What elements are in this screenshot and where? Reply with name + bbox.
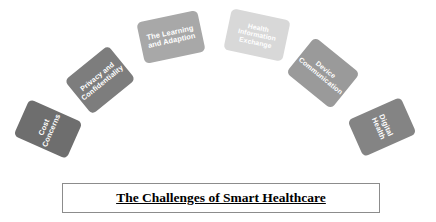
diagram-node-cost-concerns[interactable]: Cost Concerns xyxy=(13,99,82,159)
diagram-node-label: The Learning and Adaption xyxy=(146,24,197,50)
diagram-node-device-communication[interactable]: Device Communication xyxy=(286,37,360,109)
diagram-title-banner: The Challenges of Smart Healthcare xyxy=(62,183,380,213)
diagram-node-privacy-and-confidentiality[interactable]: Privacy and Confidentiality xyxy=(64,45,135,114)
diagram-node-label: Health Information Exchange xyxy=(236,20,278,50)
diagram-node-label: Digital Health xyxy=(367,107,397,147)
diagram-node-label: Cost Concerns xyxy=(33,109,63,149)
challenges-arc-diagram: Cost Concerns Privacy and Confidentialit… xyxy=(0,0,436,222)
page-title: The Challenges of Smart Healthcare xyxy=(116,190,326,206)
diagram-node-digital-health[interactable]: Digital Health xyxy=(347,97,416,157)
diagram-node-health-information-exchange[interactable]: Health Information Exchange xyxy=(223,8,290,62)
diagram-node-label: Privacy and Confidentiality xyxy=(75,58,125,103)
diagram-node-label: Device Communication xyxy=(297,50,349,96)
diagram-node-the-learning-and-adaption[interactable]: The Learning and Adaption xyxy=(136,10,205,64)
